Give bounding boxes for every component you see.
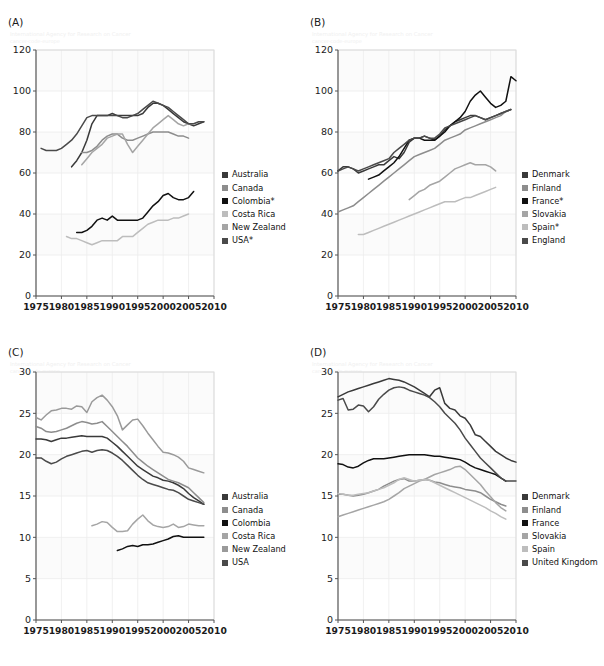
svg-text:1995: 1995 bbox=[427, 625, 453, 636]
panel-c: (C) International Agency for Research on… bbox=[0, 342, 302, 666]
legend-item-france[interactable]: France bbox=[522, 516, 598, 529]
svg-text:2000: 2000 bbox=[150, 301, 176, 312]
svg-text:1985: 1985 bbox=[376, 625, 402, 636]
legend-d: DenmarkFinlandFranceSlovakiaSpainUnited … bbox=[522, 490, 598, 569]
legend-item-new-zealand[interactable]: New Zealand bbox=[222, 543, 286, 556]
svg-text:80: 80 bbox=[321, 126, 333, 137]
svg-text:1975: 1975 bbox=[325, 301, 351, 312]
legend-label: Colombia bbox=[232, 519, 270, 527]
legend-swatch-icon bbox=[522, 238, 528, 244]
legend-swatch-icon bbox=[522, 546, 528, 552]
legend-item-australia[interactable]: Australia bbox=[222, 490, 286, 503]
svg-text:1985: 1985 bbox=[74, 301, 100, 312]
legend-swatch-icon bbox=[222, 560, 228, 566]
legend-item-canada[interactable]: Canada bbox=[222, 181, 286, 194]
legend-item-new-zealand[interactable]: New Zealand bbox=[222, 221, 286, 234]
legend-label: England bbox=[532, 236, 565, 244]
svg-text:2005: 2005 bbox=[478, 301, 504, 312]
svg-text:2000: 2000 bbox=[452, 625, 478, 636]
legend-c: AustraliaCanadaColombiaCosta RicaNew Zea… bbox=[222, 490, 286, 569]
legend-swatch-icon bbox=[222, 198, 228, 204]
svg-text:2005: 2005 bbox=[176, 625, 202, 636]
figure-panel-grid: (A) International Agency for Research on… bbox=[0, 12, 604, 666]
legend-item-finland[interactable]: Finland bbox=[522, 503, 598, 516]
svg-text:1985: 1985 bbox=[74, 625, 100, 636]
legend-item-colombia[interactable]: Colombia* bbox=[222, 194, 286, 207]
svg-text:1990: 1990 bbox=[99, 625, 125, 636]
legend-swatch-icon bbox=[222, 172, 228, 178]
svg-text:30: 30 bbox=[321, 366, 333, 377]
legend-label: USA* bbox=[232, 236, 253, 244]
legend-item-denmark[interactable]: Denmark bbox=[522, 490, 598, 503]
legend-item-france[interactable]: France* bbox=[522, 194, 570, 207]
legend-label: Australia bbox=[232, 492, 268, 500]
svg-text:30: 30 bbox=[19, 366, 31, 377]
svg-text:0: 0 bbox=[25, 290, 31, 301]
svg-text:5: 5 bbox=[327, 573, 333, 584]
svg-text:5: 5 bbox=[25, 573, 31, 584]
svg-text:10: 10 bbox=[321, 532, 333, 543]
legend-label: Slovakia bbox=[532, 532, 566, 540]
svg-text:15: 15 bbox=[19, 490, 31, 501]
panel-b: (B) International Agency for Research on… bbox=[302, 12, 604, 342]
svg-text:120: 120 bbox=[315, 44, 333, 55]
legend-label: Colombia* bbox=[232, 197, 275, 205]
legend-swatch-icon bbox=[522, 560, 528, 566]
svg-text:40: 40 bbox=[321, 208, 333, 219]
legend-swatch-icon bbox=[522, 198, 528, 204]
legend-swatch-icon bbox=[222, 238, 228, 244]
legend-label: Canada bbox=[232, 506, 263, 514]
legend-item-denmark[interactable]: Denmark bbox=[522, 168, 570, 181]
legend-item-canada[interactable]: Canada bbox=[222, 503, 286, 516]
svg-text:1980: 1980 bbox=[49, 625, 75, 636]
svg-text:25: 25 bbox=[321, 408, 333, 419]
svg-text:2010: 2010 bbox=[503, 625, 529, 636]
legend-item-colombia[interactable]: Colombia bbox=[222, 516, 286, 529]
legend-item-slovakia[interactable]: Slovakia bbox=[522, 208, 570, 221]
legend-a: AustraliaCanadaColombia*Costa RicaNew Ze… bbox=[222, 168, 286, 247]
legend-label: Australia bbox=[232, 170, 268, 178]
svg-text:2005: 2005 bbox=[478, 625, 504, 636]
svg-text:40: 40 bbox=[19, 208, 31, 219]
svg-text:60: 60 bbox=[19, 167, 31, 178]
legend-item-spain[interactable]: Spain* bbox=[522, 221, 570, 234]
svg-text:2010: 2010 bbox=[503, 301, 529, 312]
legend-swatch-icon bbox=[222, 520, 228, 526]
legend-item-costa-rica[interactable]: Costa Rica bbox=[222, 530, 286, 543]
legend-item-finland[interactable]: Finland bbox=[522, 181, 570, 194]
legend-item-slovakia[interactable]: Slovakia bbox=[522, 530, 598, 543]
legend-swatch-icon bbox=[522, 172, 528, 178]
panel-a: (A) International Agency for Research on… bbox=[0, 12, 302, 342]
legend-item-united-kingdom[interactable]: United Kingdom bbox=[522, 556, 598, 569]
legend-label: USA bbox=[232, 558, 249, 566]
legend-swatch-icon bbox=[522, 533, 528, 539]
legend-swatch-icon bbox=[222, 546, 228, 552]
svg-text:1980: 1980 bbox=[351, 301, 377, 312]
legend-label: Denmark bbox=[532, 170, 570, 178]
legend-label: Costa Rica bbox=[232, 532, 275, 540]
legend-item-usa[interactable]: USA* bbox=[222, 234, 286, 247]
legend-item-australia[interactable]: Australia bbox=[222, 168, 286, 181]
legend-swatch-icon bbox=[222, 507, 228, 513]
svg-text:1975: 1975 bbox=[325, 625, 351, 636]
panel-d: (D) International Agency for Research on… bbox=[302, 342, 604, 666]
svg-text:1995: 1995 bbox=[125, 301, 151, 312]
legend-item-usa[interactable]: USA bbox=[222, 556, 286, 569]
svg-text:2010: 2010 bbox=[201, 301, 227, 312]
legend-b: DenmarkFinlandFrance*SlovakiaSpain*Engla… bbox=[522, 168, 570, 247]
legend-swatch-icon bbox=[222, 185, 228, 191]
svg-text:120: 120 bbox=[13, 44, 31, 55]
svg-text:1990: 1990 bbox=[401, 625, 427, 636]
legend-swatch-icon bbox=[522, 185, 528, 191]
legend-label: New Zealand bbox=[232, 223, 286, 231]
legend-item-costa-rica[interactable]: Costa Rica bbox=[222, 208, 286, 221]
svg-text:1995: 1995 bbox=[427, 301, 453, 312]
svg-text:2000: 2000 bbox=[150, 625, 176, 636]
legend-item-spain[interactable]: Spain bbox=[522, 543, 598, 556]
legend-label: Spain* bbox=[532, 223, 559, 231]
svg-text:1990: 1990 bbox=[401, 301, 427, 312]
svg-text:2000: 2000 bbox=[452, 301, 478, 312]
legend-label: Costa Rica bbox=[232, 210, 275, 218]
legend-item-england[interactable]: England bbox=[522, 234, 570, 247]
svg-text:1990: 1990 bbox=[99, 301, 125, 312]
